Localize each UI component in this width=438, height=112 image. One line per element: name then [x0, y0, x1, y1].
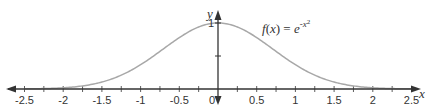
- x-tick-label: 2.5: [404, 94, 419, 106]
- x-tick-label: 1.5: [326, 94, 341, 106]
- formula-equals: =: [280, 21, 294, 36]
- y-axis-arrow-down: [215, 96, 222, 105]
- x-tick-label: -2.5: [15, 94, 34, 106]
- x-tick-label: 0.5: [249, 94, 264, 106]
- y-axis-arrow-up: [215, 10, 222, 20]
- x-tick-label: -2: [58, 94, 68, 106]
- formula-exponent: -x: [300, 19, 307, 29]
- x-axis-arrow-left: [6, 86, 16, 93]
- chart: -2.5-2-1.5-1-0.500.511.522.5 1 x y f(x) …: [0, 0, 438, 112]
- x-tick-label: 1: [292, 94, 298, 106]
- x-tick-label: -0.5: [170, 94, 189, 106]
- x-tick-label: -1: [136, 94, 146, 106]
- x-tick-label: 2: [370, 94, 376, 106]
- x-tick-label: -1.5: [92, 94, 111, 106]
- y-axis-label: y: [205, 6, 213, 21]
- function-annotation: f(x) = e-x2: [262, 18, 311, 36]
- x-axis-label: x: [418, 86, 425, 101]
- x-tick-label: 0: [209, 94, 215, 106]
- formula-exponent-power: 2: [307, 18, 311, 26]
